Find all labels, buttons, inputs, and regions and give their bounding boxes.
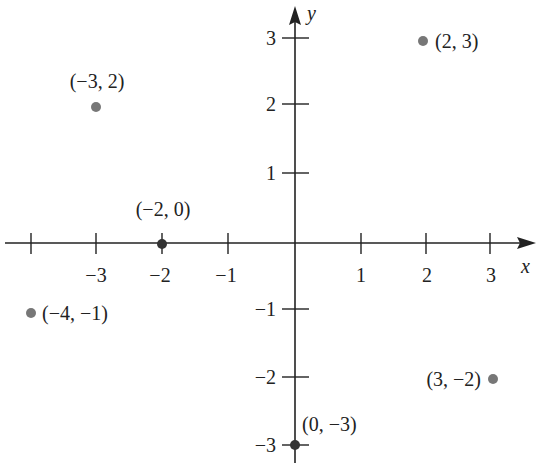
x-tick-label: −2: [149, 264, 170, 286]
svg-text:(2, 3): (2, 3): [435, 30, 478, 53]
y-tick-label: 1: [266, 162, 276, 184]
svg-text:(−3, 2): (−3, 2): [70, 70, 125, 93]
x-tick-label: 3: [486, 264, 496, 286]
y-tick-label: 2: [266, 93, 276, 115]
point-3-neg2: (3, −2): [426, 368, 498, 391]
svg-text:(3, −2): (3, −2): [426, 368, 481, 391]
y-axis: y: [289, 2, 316, 463]
x-tick-label: 2: [422, 264, 432, 286]
point-neg3-2: (−3, 2): [70, 70, 125, 112]
x-tick-labels: −3 −2 −1 1 2 3: [85, 264, 496, 286]
x-tick-label: −3: [85, 264, 106, 286]
y-tick-label: 3: [266, 27, 276, 49]
y-tick-labels: 3 2 1 −1 −2 −3: [255, 27, 276, 456]
coordinate-plane: x y −3 −2 −1 1 2 3 3 2 1 −1 −2: [0, 0, 540, 463]
svg-text:(0, −3): (0, −3): [302, 413, 357, 436]
svg-text:(−2, 0): (−2, 0): [136, 198, 191, 221]
y-tick-label: −3: [255, 434, 276, 456]
x-tick-label: 1: [356, 264, 366, 286]
svg-text:(−4, −1): (−4, −1): [42, 302, 108, 325]
x-axis-name: x: [520, 255, 530, 277]
y-tick-label: −2: [255, 366, 276, 388]
x-tick-label: −1: [215, 264, 236, 286]
y-axis-name: y: [305, 2, 316, 25]
point-2-3: (2, 3): [418, 30, 478, 53]
point-neg4-neg1: (−4, −1): [26, 302, 108, 325]
point-neg2-0: (−2, 0): [136, 198, 191, 249]
y-tick-label: −1: [255, 298, 276, 320]
